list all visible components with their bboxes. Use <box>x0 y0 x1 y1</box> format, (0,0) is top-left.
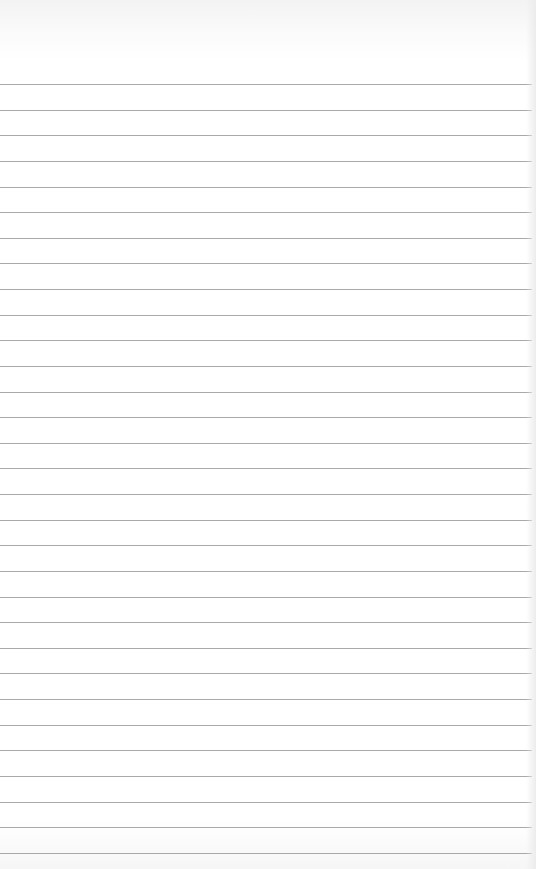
ruled-line <box>0 135 532 136</box>
ruled-line <box>0 571 532 572</box>
ruled-line <box>0 750 532 751</box>
ruled-line <box>0 392 532 393</box>
ruled-line <box>0 622 532 623</box>
ruled-line <box>0 673 532 674</box>
ruled-line <box>0 802 532 803</box>
ruled-line <box>0 315 532 316</box>
ruled-line <box>0 597 532 598</box>
ruled-line <box>0 161 532 162</box>
ruled-line <box>0 443 532 444</box>
page-edge-shadow <box>526 0 536 869</box>
ruled-line <box>0 238 532 239</box>
ruled-line <box>0 366 532 367</box>
ruled-line <box>0 289 532 290</box>
ruled-line <box>0 468 532 469</box>
ruled-line <box>0 417 532 418</box>
ruled-line <box>0 699 532 700</box>
ruled-line <box>0 340 532 341</box>
ruled-line <box>0 545 532 546</box>
ruled-line <box>0 84 532 85</box>
ruled-line <box>0 853 532 854</box>
ruled-line <box>0 263 532 264</box>
ruled-line <box>0 110 532 111</box>
ruled-line <box>0 494 532 495</box>
ruled-line <box>0 187 532 188</box>
ruled-line <box>0 776 532 777</box>
ruled-line <box>0 827 532 828</box>
ruled-line <box>0 520 532 521</box>
ruled-line <box>0 212 532 213</box>
lined-paper-sheet <box>0 0 536 869</box>
ruled-line <box>0 648 532 649</box>
ruled-line <box>0 725 532 726</box>
